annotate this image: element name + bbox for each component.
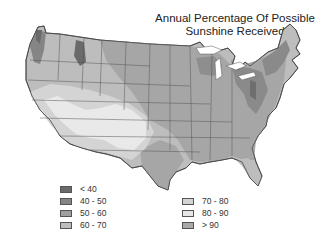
legend-right: 70 - 80 80 - 90 > 90 [182,195,228,231]
legend-label: > 90 [202,220,219,230]
legend-item: > 90 [182,219,228,231]
legend-swatch [60,198,72,205]
legend-label: 40 - 50 [80,196,106,206]
legend-left: < 40 40 - 50 50 - 60 60 - 70 [60,183,106,231]
legend-item: 80 - 90 [182,207,228,219]
legend-item: 40 - 50 [60,195,106,207]
legend-item: 70 - 80 [182,195,228,207]
legend-label: 70 - 80 [202,196,228,206]
legend-item: < 40 [60,183,106,195]
legend-label: 50 - 60 [80,208,106,218]
legend-label: 80 - 90 [202,208,228,218]
legend-swatch [60,222,72,229]
legend-swatch [182,210,194,217]
legend-label: < 40 [80,184,97,194]
legend-swatch [60,186,72,193]
us-sunshine-map [0,0,330,237]
legend-item: 60 - 70 [60,219,106,231]
legend-swatch [60,210,72,217]
legend-item: 50 - 60 [60,207,106,219]
legend-swatch [182,222,194,229]
legend-swatch [182,198,194,205]
legend-label: 60 - 70 [80,220,106,230]
